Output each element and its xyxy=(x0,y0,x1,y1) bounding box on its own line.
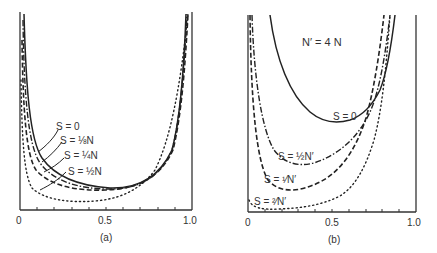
panel-a-curve-s1 xyxy=(23,14,187,189)
panel-a-label-s2: S = ¼N xyxy=(64,150,98,161)
panel-b-tick-0: 0 xyxy=(245,217,251,228)
panel-a-label-s1: S = ⅛N xyxy=(60,135,94,146)
figure: S = 0 S = ⅛N S = ¼N S = ½N 0 0.5 1.0 (a)… xyxy=(0,0,437,253)
panel-a-curve-s3 xyxy=(21,14,188,202)
panel-b: N′ = 4 N S = 0 S = ½N′ S = ¹⁄N′ S = ²⁄N′… xyxy=(245,15,421,245)
panel-b-tick-05: 0.5 xyxy=(325,217,339,228)
panel-a-tick-05: 0.5 xyxy=(98,215,112,226)
panel-b-label-s1: S = ½N′ xyxy=(278,151,314,162)
panel-b-label-s3: S = ²⁄N′ xyxy=(254,196,286,207)
panel-a-label-s3: S = ½N xyxy=(68,166,102,177)
panel-b-label-s2: S = ¹⁄N′ xyxy=(264,174,296,185)
panel-a-tick-0: 0 xyxy=(16,215,22,226)
panel-a-curve-s0 xyxy=(24,14,186,188)
panel-a: S = 0 S = ⅛N S = ¼N S = ½N 0 0.5 1.0 (a) xyxy=(16,12,197,243)
panel-b-tick-1: 1.0 xyxy=(407,217,421,228)
panel-a-tick-1: 1.0 xyxy=(183,215,197,226)
panel-a-caption: (a) xyxy=(100,232,112,243)
panel-b-caption: (b) xyxy=(328,234,340,245)
panel-a-label-s0: S = 0 xyxy=(56,121,80,132)
panel-b-label-s0: S = 0 xyxy=(333,111,357,122)
panel-b-annotation: N′ = 4 N xyxy=(302,36,342,48)
